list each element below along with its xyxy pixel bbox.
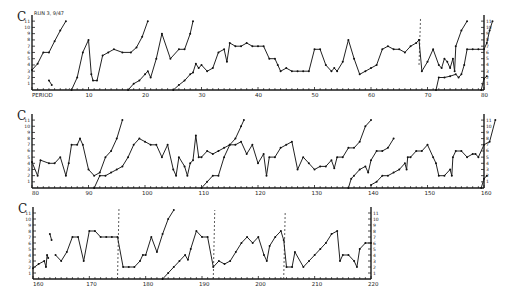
data-point bbox=[407, 156, 409, 158]
data-point bbox=[364, 70, 366, 72]
data-point bbox=[133, 83, 135, 85]
x-tick-label: 130 bbox=[312, 190, 323, 196]
data-point bbox=[128, 266, 130, 268]
data-point bbox=[48, 80, 50, 82]
data-point bbox=[150, 76, 152, 78]
data-point bbox=[381, 175, 383, 177]
data-point bbox=[142, 254, 144, 256]
y-tick-label: 4 bbox=[27, 62, 30, 67]
data-point bbox=[336, 70, 338, 72]
x-tick-label: 140 bbox=[368, 190, 379, 196]
data-point bbox=[472, 153, 474, 155]
x-tick-label: 100 bbox=[142, 190, 153, 196]
data-point bbox=[133, 144, 135, 146]
y-tick-label-right: 4 bbox=[486, 62, 489, 67]
data-line bbox=[56, 210, 174, 267]
x-tick-label: 170 bbox=[86, 281, 97, 287]
y-tick-label-right: 2 bbox=[373, 265, 376, 270]
data-point bbox=[410, 45, 412, 47]
data-point bbox=[31, 161, 33, 163]
x-tick-label: 160 bbox=[33, 281, 44, 287]
data-point bbox=[104, 156, 106, 158]
data-point bbox=[173, 266, 175, 268]
y-tick-label-right: 6 bbox=[486, 50, 489, 55]
data-point bbox=[45, 266, 47, 268]
data-point bbox=[257, 45, 259, 47]
data-point bbox=[291, 141, 293, 143]
data-point bbox=[190, 248, 192, 250]
data-point bbox=[297, 70, 299, 72]
data-point bbox=[302, 156, 304, 158]
data-point bbox=[314, 168, 316, 170]
data-point bbox=[441, 67, 443, 69]
data-point bbox=[475, 153, 477, 155]
x-tick-label: 50 bbox=[312, 92, 319, 98]
data-point bbox=[398, 168, 400, 170]
data-point bbox=[280, 230, 282, 232]
data-point bbox=[347, 39, 349, 41]
data-point bbox=[283, 239, 285, 241]
data-point bbox=[466, 156, 468, 158]
data-point bbox=[100, 236, 102, 238]
data-point bbox=[178, 156, 180, 158]
data-point bbox=[167, 144, 169, 146]
data-point bbox=[319, 165, 321, 167]
data-line bbox=[72, 21, 148, 90]
data-point bbox=[184, 254, 186, 256]
data-point bbox=[178, 48, 180, 50]
y-tick-label: 10 bbox=[24, 124, 30, 129]
data-point bbox=[443, 58, 445, 60]
data-point bbox=[121, 165, 123, 167]
data-point bbox=[121, 119, 123, 121]
y-axis-label: C bbox=[18, 202, 27, 216]
y-tick-label-right: 6 bbox=[486, 148, 489, 153]
data-point bbox=[308, 70, 310, 72]
data-point bbox=[347, 187, 349, 189]
data-point bbox=[418, 39, 420, 41]
data-point bbox=[486, 42, 488, 44]
data-point bbox=[88, 230, 90, 232]
data-point bbox=[308, 260, 310, 262]
data-point bbox=[438, 175, 440, 177]
data-point bbox=[387, 45, 389, 47]
data-point bbox=[99, 172, 101, 174]
data-point bbox=[212, 153, 214, 155]
run-break-marker bbox=[213, 210, 215, 279]
data-point bbox=[167, 218, 169, 220]
y-tick-label: 2 bbox=[27, 75, 30, 80]
data-point bbox=[263, 254, 265, 256]
data-point bbox=[162, 278, 164, 280]
data-point bbox=[265, 175, 267, 177]
panel-1: 11223344556677889910101111CPERIOD1020304… bbox=[17, 10, 493, 98]
data-point bbox=[169, 58, 171, 60]
data-point bbox=[71, 89, 73, 91]
data-point bbox=[189, 73, 191, 75]
data-point bbox=[466, 20, 468, 22]
data-point bbox=[370, 184, 372, 186]
data-point bbox=[404, 162, 406, 164]
data-point bbox=[477, 156, 479, 158]
data-point bbox=[333, 67, 335, 69]
data-point bbox=[460, 73, 462, 75]
y-tick-label-right: 3 bbox=[373, 259, 376, 264]
data-point bbox=[427, 61, 429, 63]
data-point bbox=[184, 48, 186, 50]
data-point bbox=[297, 168, 299, 170]
data-point bbox=[333, 167, 335, 169]
data-point bbox=[42, 51, 44, 53]
y-tick-label-right: 3 bbox=[486, 167, 489, 172]
y-tick-label-right: 4 bbox=[486, 161, 489, 166]
data-point bbox=[88, 168, 90, 170]
data-point bbox=[201, 64, 203, 66]
y-tick-label-right: 9 bbox=[486, 130, 489, 135]
data-point bbox=[443, 76, 445, 78]
data-point bbox=[359, 73, 361, 75]
data-point bbox=[59, 30, 61, 32]
data-point bbox=[446, 61, 448, 63]
data-point bbox=[246, 42, 248, 44]
data-point bbox=[460, 30, 462, 32]
data-point bbox=[212, 266, 214, 268]
data-point bbox=[489, 141, 491, 143]
data-point bbox=[314, 254, 316, 256]
data-point bbox=[76, 144, 78, 146]
